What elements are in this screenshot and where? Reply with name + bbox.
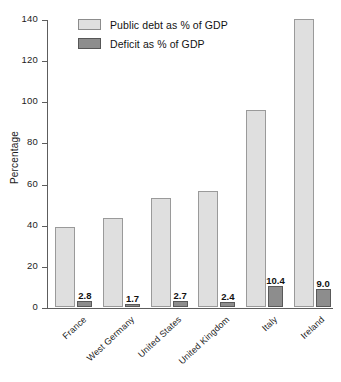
bar-group: 2.7 [151,19,188,307]
y-axis-line [47,20,48,309]
y-axis-tick: 40 [42,226,47,227]
legend-swatch-debt [78,19,101,30]
y-axis-tick: 20 [42,267,47,268]
y-axis-tick: 0 [42,308,47,309]
bar-value-label: 2.4 [221,291,234,302]
bar-deficit: 10.4 [268,286,283,307]
bar-chart: Percentage 020406080100120140 2.81.72.72… [0,0,341,382]
x-axis-label-text: United Kingdom [177,313,233,366]
bar-value-label: 1.7 [126,293,139,304]
legend-item: Public debt as % of GDP [78,16,288,33]
y-axis-tick-label: 60 [27,178,38,189]
x-axis-label-text: France [60,313,89,341]
legend-label: Public debt as % of GDP [110,19,228,31]
y-axis-tick: 140 [42,20,47,21]
bar-group: 2.4 [198,19,235,307]
x-axis-label-text: United States [136,313,185,359]
y-axis-tick: 120 [42,61,47,62]
bar-group: 10.4 [246,19,283,307]
x-axis-label-text: West Germany [84,313,137,363]
y-axis-tick-label: 100 [22,95,38,106]
y-axis-tick-label: 40 [27,219,38,230]
y-axis-tick-label: 140 [22,13,38,24]
bar-public-debt [55,227,75,307]
y-axis-tick-label: 0 [33,301,38,312]
y-axis-tick: 60 [42,185,47,186]
legend-label: Deficit as % of GDP [110,38,205,50]
y-axis-tick-label: 20 [27,260,38,271]
y-axis-tick-label: 80 [27,136,38,147]
bar-group: 2.8 [55,19,92,307]
bar-public-debt [294,19,314,307]
bar-value-label: 9.0 [317,278,330,289]
y-axis-title: Percentage [9,113,20,203]
bar-group: 1.7 [103,19,140,307]
x-axis-label-text: Ireland [299,313,328,341]
y-axis-tick: 80 [42,143,47,144]
bar-value-label: 2.7 [174,290,187,301]
legend-swatch-deficit [78,38,101,49]
bar-value-label: 2.8 [78,290,91,301]
legend-item: Deficit as % of GDP [78,35,288,52]
chart-legend: Public debt as % of GDPDeficit as % of G… [78,16,288,54]
plot-area: 020406080100120140 2.81.72.72.410.49.0 F… [47,20,333,308]
y-axis-tick: 100 [42,102,47,103]
y-axis-tick-label: 120 [22,54,38,65]
bar-group: 9.0 [294,19,331,307]
x-axis-label-text: Italy [260,313,281,333]
